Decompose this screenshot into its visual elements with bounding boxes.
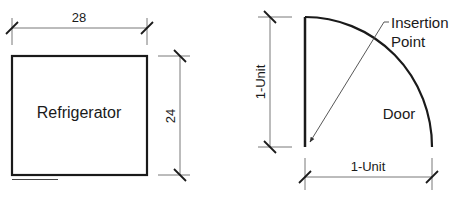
door-horizontal-dimension-label: 1-Unit	[351, 159, 386, 174]
depth-dimension: 24	[158, 50, 190, 181]
door-vertical-dimension-label: 1-Unit	[253, 64, 268, 99]
width-dimension: 28	[6, 10, 153, 45]
insertion-point-label-line1: Insertion	[391, 14, 449, 31]
diagram-canvas: Refrigerator 28 24 Door Insertion Point	[0, 0, 455, 197]
refrigerator-group: Refrigerator 28 24	[6, 10, 190, 181]
door-group: Door Insertion Point 1-Unit 1-Unit	[253, 11, 449, 190]
insertion-point-label-line2: Point	[391, 33, 426, 50]
diagram-svg: Refrigerator 28 24 Door Insertion Point	[0, 0, 455, 197]
door-horizontal-dimension: 1-Unit	[299, 158, 438, 190]
width-dimension-label: 28	[72, 10, 86, 25]
depth-dimension-label: 24	[163, 109, 178, 123]
door-label: Door	[383, 105, 416, 122]
refrigerator-label: Refrigerator	[37, 104, 122, 121]
door-vertical-dimension: 1-Unit	[253, 11, 292, 153]
